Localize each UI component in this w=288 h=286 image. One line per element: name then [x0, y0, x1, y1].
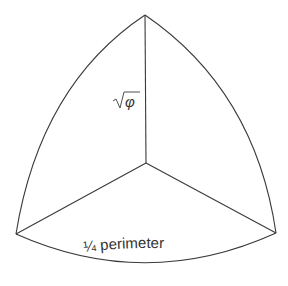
left-arc: [16, 15, 145, 234]
right-arc: [145, 15, 276, 233]
radius-left: [16, 163, 146, 234]
quarter-perimeter-text: ¼ perimeter: [82, 234, 164, 255]
phi-symbol: φ: [125, 93, 135, 110]
radius-top: [145, 15, 146, 163]
quarter-perimeter-label: ¼ perimeter: [82, 234, 164, 255]
sqrt-phi-label: φ: [113, 92, 140, 110]
radius-right: [146, 163, 276, 233]
diagram-canvas: φ ¼ perimeter: [0, 0, 288, 286]
